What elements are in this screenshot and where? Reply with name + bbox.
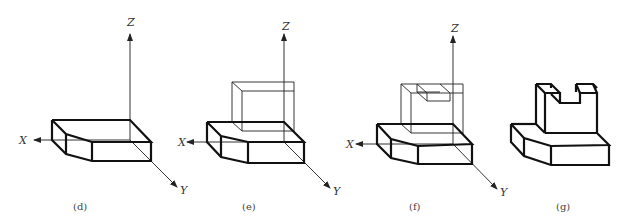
panel-g: (g) [511,84,609,212]
base-plate-e [207,122,304,163]
y-label: Y [500,186,509,199]
caption-e: (e) [242,201,256,212]
x-label: X [177,136,187,149]
z-label: Z [126,16,135,29]
caption-g: (g) [556,201,570,212]
axes-f: Z X Y [345,22,509,199]
isometric-construction-figure: Z X Y (d) Z X Y [0,0,631,224]
axes-d: Z X Y [18,16,189,197]
final-solid-g [511,84,609,165]
caption-d: (d) [73,201,87,212]
box-outline-e [232,82,294,132]
y-axis [130,140,177,187]
y-axis [453,144,497,189]
caption-f: (f) [409,201,421,212]
y-label: Y [333,185,342,198]
panel-e: Z X Y (e) [177,20,342,212]
z-label: Z [281,20,290,33]
z-label: Z [450,22,459,35]
slotted-box-outline-f [401,84,463,134]
panel-f: Z X Y (f) [345,22,509,212]
panel-d: Z X Y (d) [18,16,189,212]
x-label: X [18,134,28,147]
axes-e: Z X Y [177,20,342,198]
y-label: Y [180,184,189,197]
y-axis [284,142,330,188]
x-label: X [345,138,355,151]
